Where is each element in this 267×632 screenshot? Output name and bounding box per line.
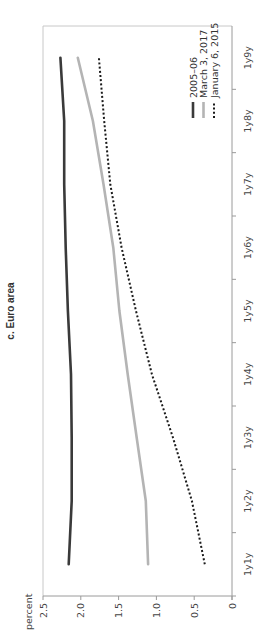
x-tick-label: 1y7y bbox=[242, 172, 253, 196]
x-axis: 1y1y1y2y1y3y1y4y1y5y1y6y1y7y1y8y1y9y bbox=[232, 46, 253, 576]
x-tick-label: 1y4y bbox=[242, 362, 253, 386]
x-tick-label: 1y8y bbox=[242, 109, 253, 133]
legend-label: March 3, 2017 bbox=[198, 30, 209, 98]
y-tick-label: 2.0 bbox=[75, 603, 86, 618]
y-tick-label: 0.5 bbox=[189, 603, 200, 618]
x-tick-label: 1y5y bbox=[242, 299, 253, 323]
y-tick-label: 1.0 bbox=[151, 603, 162, 618]
x-tick-label: 1y6y bbox=[242, 236, 253, 260]
legend-label: January 6, 2015 bbox=[209, 23, 220, 99]
y-axis: 00.51.01.52.02.5 bbox=[38, 596, 238, 618]
y-axis-title: percent bbox=[23, 593, 34, 630]
series-line-2 bbox=[99, 58, 205, 565]
series-line-0 bbox=[60, 58, 71, 565]
chart-title: c. Euro area bbox=[5, 282, 16, 340]
y-tick-label: 0 bbox=[227, 603, 238, 609]
x-tick-label: 1y9y bbox=[242, 46, 253, 70]
series-line-1 bbox=[78, 58, 148, 565]
x-tick-label: 1y2y bbox=[242, 489, 253, 513]
line-chart: c. Euro area percent 00.51.01.52.02.5 1y… bbox=[0, 0, 267, 632]
x-tick-label: 1y3y bbox=[242, 426, 253, 450]
y-tick-label: 2.5 bbox=[38, 603, 49, 618]
x-tick-label: 1y1y bbox=[242, 552, 253, 576]
legend: 2005–06March 3, 2017January 6, 2015 bbox=[188, 23, 220, 118]
legend-label: 2005–06 bbox=[188, 57, 199, 98]
series-lines bbox=[60, 58, 204, 565]
y-tick-label: 1.5 bbox=[113, 603, 124, 618]
chart-container: c. Euro area percent 00.51.01.52.02.5 1y… bbox=[0, 0, 267, 632]
